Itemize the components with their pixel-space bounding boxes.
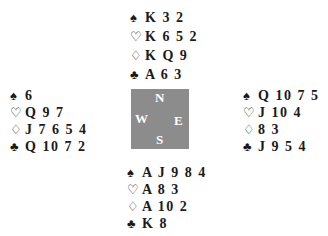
diamond-icon: ♢ xyxy=(130,46,145,65)
north-clubs: ♣A 6 3 xyxy=(130,65,198,84)
east-hand: ♠Q 10 7 5 ♡J 10 4 ♢8 3 ♣J 9 5 4 xyxy=(243,87,319,155)
north-hearts: ♡K 6 5 2 xyxy=(130,27,198,46)
west-hearts: ♡Q 9 7 xyxy=(10,104,88,121)
east-diamonds: ♢8 3 xyxy=(243,121,319,138)
compass-west-label: W xyxy=(135,111,148,127)
north-spades: ♠K 3 2 xyxy=(130,8,198,27)
spade-icon: ♠ xyxy=(243,87,258,104)
east-spades: ♠Q 10 7 5 xyxy=(243,87,319,104)
spade-icon: ♠ xyxy=(127,164,142,181)
club-icon: ♣ xyxy=(10,138,25,155)
club-icon: ♣ xyxy=(243,138,258,155)
east-hearts: ♡J 10 4 xyxy=(243,104,319,121)
compass-box: N W E S xyxy=(131,89,189,149)
south-hearts: ♡A 8 3 xyxy=(127,181,207,198)
west-diamonds: ♢J 7 6 5 4 xyxy=(10,121,88,138)
south-hand: ♠A J 9 8 4 ♡A 8 3 ♢A 10 2 ♣K 8 xyxy=(127,164,207,232)
west-hand: ♠6 ♡Q 9 7 ♢J 7 6 5 4 ♣Q 10 7 2 xyxy=(10,87,88,155)
spade-icon: ♠ xyxy=(130,8,145,27)
compass-north-label: N xyxy=(155,90,164,106)
diamond-icon: ♢ xyxy=(127,198,142,215)
diamond-icon: ♢ xyxy=(10,121,25,138)
diamond-icon: ♢ xyxy=(243,121,258,138)
west-clubs: ♣Q 10 7 2 xyxy=(10,138,88,155)
heart-icon: ♡ xyxy=(243,104,258,121)
south-spades: ♠A J 9 8 4 xyxy=(127,164,207,181)
spade-icon: ♠ xyxy=(10,87,25,104)
heart-icon: ♡ xyxy=(127,181,142,198)
compass-east-label: E xyxy=(174,113,183,129)
heart-icon: ♡ xyxy=(10,104,25,121)
west-spades: ♠6 xyxy=(10,87,88,104)
heart-icon: ♡ xyxy=(130,27,145,46)
north-diamonds: ♢K Q 9 xyxy=(130,46,198,65)
club-icon: ♣ xyxy=(130,65,145,84)
south-clubs: ♣K 8 xyxy=(127,215,207,232)
compass-south-label: S xyxy=(156,132,163,148)
south-diamonds: ♢A 10 2 xyxy=(127,198,207,215)
north-hand: ♠K 3 2 ♡K 6 5 2 ♢K Q 9 ♣A 6 3 xyxy=(130,8,198,84)
club-icon: ♣ xyxy=(127,215,142,232)
east-clubs: ♣J 9 5 4 xyxy=(243,138,319,155)
